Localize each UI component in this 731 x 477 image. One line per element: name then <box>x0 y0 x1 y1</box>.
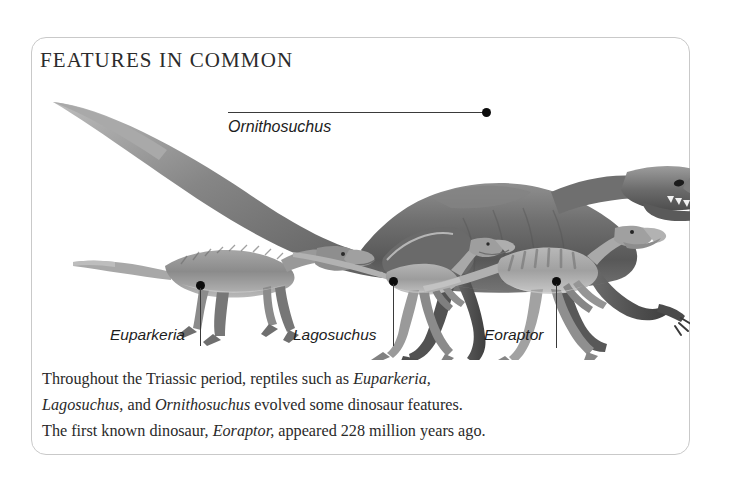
leader-line-ornithosuchus <box>228 112 486 113</box>
caption-line3-genus: Eoraptor, <box>213 422 275 440</box>
label-euparkeria: Euparkeria <box>110 326 185 344</box>
leader-line-eoraptor <box>556 284 557 348</box>
info-box-page: FEATURES IN COMMON <box>0 0 731 477</box>
caption-line-2: Lagosuchus, and Ornithosuchus evolved so… <box>42 392 642 418</box>
comparative-illustration-figure <box>31 80 690 360</box>
illustration-ornithosuchus <box>53 102 690 360</box>
caption-line1-genus: Euparkeria, <box>353 370 431 388</box>
leader-dot-ornithosuchus <box>482 108 491 117</box>
caption-line2-plain-a: and <box>123 396 154 414</box>
leader-line-euparkeria <box>200 288 201 346</box>
caption-line-3: The first known dinosaur, Eoraptor, appe… <box>42 418 642 444</box>
leader-line-lagosuchus <box>393 284 394 346</box>
page-title: FEATURES IN COMMON <box>40 48 293 73</box>
caption-text: Throughout the Triassic period, reptiles… <box>42 366 642 444</box>
caption-line1-plain: Throughout the Triassic period, reptiles… <box>42 370 353 388</box>
caption-line3-plain-b: appeared 228 million years ago. <box>274 422 485 440</box>
caption-line2-genus1: Lagosuchus, <box>42 396 123 414</box>
caption-line3-plain-a: The first known dinosaur, <box>42 422 213 440</box>
caption-line2-plain-b: evolved some dinosaur features. <box>250 396 463 414</box>
label-eoraptor: Eoraptor <box>484 326 543 344</box>
label-lagosuchus: Lagosuchus <box>293 326 377 344</box>
caption-line2-genus2: Ornithosuchus <box>155 396 250 414</box>
label-ornithosuchus: Ornithosuchus <box>228 118 331 136</box>
caption-line-1: Throughout the Triassic period, reptiles… <box>42 366 642 392</box>
